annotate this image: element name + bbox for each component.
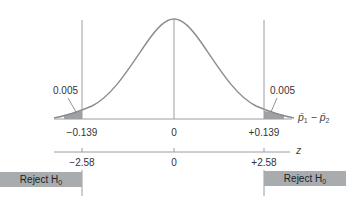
reject-left-text: Reject H [20, 174, 58, 185]
upper-tick-right: +0.139 [249, 128, 280, 138]
upper-axis-label: p̄1 − p̄2 [298, 112, 329, 124]
right-tail-area-label: 0.005 [270, 86, 295, 96]
reject-region-left: Reject H0 [0, 172, 82, 187]
reject-right-subscript: 0 [322, 178, 326, 185]
left-tail-area-label: 0.005 [53, 86, 78, 96]
left-tail-leader [68, 98, 76, 112]
reject-left-subscript: 0 [58, 179, 62, 186]
lower-tick-label-center: 0 [171, 158, 177, 168]
p2-subscript: 2 [326, 117, 330, 124]
minus-p2-bar-symbol: − p̄ [308, 111, 326, 123]
lower-tick-label-left: −2.58 [69, 158, 94, 168]
reject-region-right: Reject H0 [264, 171, 346, 186]
upper-tick-center: 0 [171, 128, 177, 138]
right-tail-leader [271, 98, 277, 112]
lower-tick-label-right: +2.58 [251, 158, 276, 168]
reject-right-text: Reject H [284, 173, 322, 184]
normal-distribution-figure: 0.005 0.005 −0.139 0 +0.139 p̄1 − p̄2 −2… [0, 0, 360, 209]
lower-axis-label: z [296, 145, 301, 156]
upper-tick-left: −0.139 [67, 128, 98, 138]
